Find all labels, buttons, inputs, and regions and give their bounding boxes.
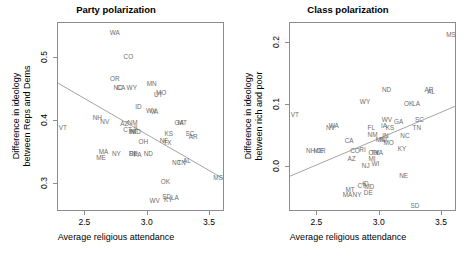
y-tick-label: 0.5: [39, 51, 49, 63]
data-point-label: VA: [375, 150, 383, 156]
panel-title: Party polarization: [0, 4, 232, 15]
data-point-label: AZ: [348, 156, 356, 162]
y-tick-label: 0.0: [271, 160, 281, 172]
data-point-label: LA: [412, 101, 420, 107]
data-point-label: WY: [360, 99, 370, 105]
y-axis-title-line1: Difference in ideology: [243, 71, 254, 160]
data-point-label: WY: [127, 84, 137, 90]
x-tick-label: 3.5: [203, 217, 215, 227]
y-tick-mark: [285, 166, 289, 167]
figure-root: Party polarization WACOORNCCAWYMNUTMOIDW…: [0, 0, 464, 270]
x-axis-title: Average religious attendance: [232, 232, 464, 242]
data-point-label: PA: [133, 152, 141, 158]
x-tick-mark: [84, 211, 85, 215]
data-point-label: IL: [134, 125, 139, 131]
y-tick-label: 0.2: [271, 36, 281, 48]
data-point-label: WA: [110, 30, 120, 36]
data-point-label: MT: [178, 120, 187, 126]
data-point-label: OR: [316, 148, 326, 154]
data-point-label: NJ: [362, 163, 370, 169]
y-tick-mark: [285, 42, 289, 43]
data-point-label: CO: [124, 54, 134, 60]
data-point-label: MO: [384, 140, 394, 146]
data-point-label: ND: [144, 151, 153, 157]
data-point-label: AL: [183, 158, 191, 164]
data-point-label: NV: [100, 119, 109, 125]
data-point-label: ID: [135, 104, 141, 110]
plot-frame: WACOORNCCAWYMNUTMOIDWVVANHNVAZNMGAMTVTCT…: [57, 22, 224, 211]
data-point-label: NC: [400, 133, 409, 139]
data-point-label: MA: [343, 192, 353, 198]
data-point-label: KY: [398, 146, 407, 152]
data-point-label: OR: [110, 76, 120, 82]
data-point-label: NY: [353, 192, 362, 198]
x-tick-mark: [316, 211, 317, 215]
y-tick-mark: [53, 57, 57, 58]
data-point-label: CA: [345, 138, 354, 144]
x-tick-mark: [147, 211, 148, 215]
y-axis-title: Difference in ideology between rich and …: [243, 71, 266, 160]
data-point-label: VT: [291, 112, 299, 118]
data-point-label: VA: [150, 108, 158, 114]
data-point-label: TX: [163, 140, 171, 146]
data-point-label: RI: [359, 147, 365, 153]
data-point-label: SD: [410, 203, 419, 209]
data-point-layer: MSNDARALWYOKLAVTWVGASCNVWAIAKSTNFLNMINNC…: [290, 23, 455, 210]
chart-panel-party-polarization: Party polarization WACOORNCCAWYMNUTMOIDW…: [0, 0, 232, 270]
x-axis-title: Average religious attendance: [0, 232, 232, 242]
x-axis: 2.53.03.5: [57, 211, 224, 212]
data-point-layer: WACOORNCCAWYMNUTMOIDWVVANHNVAZNMGAMTVTCT…: [58, 23, 223, 210]
x-tick-mark: [209, 211, 210, 215]
x-tick-label: 2.5: [310, 217, 322, 227]
data-point-label: MS: [213, 174, 223, 180]
data-point-label: AL: [427, 89, 435, 95]
data-point-label: KS: [386, 125, 395, 131]
y-tick-label: 0.4: [39, 114, 49, 126]
data-point-label: DE: [364, 190, 373, 196]
y-tick-label: 0.3: [39, 177, 49, 189]
data-point-label: MS: [446, 32, 456, 38]
data-point-label: WI: [371, 161, 379, 167]
x-tick-mark: [441, 211, 442, 215]
data-point-label: AR: [189, 134, 198, 140]
data-point-label: VT: [59, 125, 67, 131]
data-point-label: MN: [147, 81, 157, 87]
y-axis-title-line1: Difference in ideology: [11, 65, 22, 166]
data-point-label: TN: [413, 125, 422, 131]
data-point-label: KS: [164, 130, 173, 136]
y-tick-mark: [53, 183, 57, 184]
data-point-label: NE: [399, 173, 408, 179]
x-axis: 2.53.03.5: [289, 211, 456, 212]
data-point-label: LA: [171, 195, 179, 201]
x-tick-label: 3.5: [435, 217, 447, 227]
y-axis-title-line2: between Reps and Dems: [22, 65, 33, 166]
x-tick-label: 2.5: [78, 217, 90, 227]
y-tick-label: 0.1: [271, 98, 281, 110]
x-tick-mark: [379, 211, 380, 215]
data-point-label: CA: [116, 84, 125, 90]
data-point-label: OH: [139, 139, 149, 145]
panel-title: Class polarization: [232, 4, 464, 15]
data-point-label: SC: [415, 116, 424, 122]
x-tick-label: 3.0: [141, 217, 153, 227]
data-point-label: GA: [394, 118, 403, 124]
y-axis-title-line2: between rich and poor: [254, 71, 265, 160]
y-axis-title: Difference in ideology between Reps and …: [11, 65, 34, 166]
y-axis: 0.00.10.2: [289, 22, 290, 211]
data-point-label: NY: [112, 151, 121, 157]
plot-frame: MSNDARALWYOKLAVTWVGASCNVWAIAKSTNFLNMINNC…: [289, 22, 456, 211]
data-point-label: ME: [96, 154, 106, 160]
data-point-label: OK: [161, 179, 170, 185]
data-point-label: WA: [329, 123, 339, 129]
data-point-label: WV: [149, 198, 159, 204]
y-axis: 0.30.40.5: [57, 22, 58, 211]
chart-panel-class-polarization: Class polarization MSNDARALWYOKLAVTWVGAS…: [232, 0, 464, 270]
data-point-label: ND: [382, 87, 391, 93]
data-point-label: MO: [156, 90, 166, 96]
y-tick-mark: [285, 104, 289, 105]
y-tick-mark: [53, 120, 57, 121]
x-tick-label: 3.0: [373, 217, 385, 227]
